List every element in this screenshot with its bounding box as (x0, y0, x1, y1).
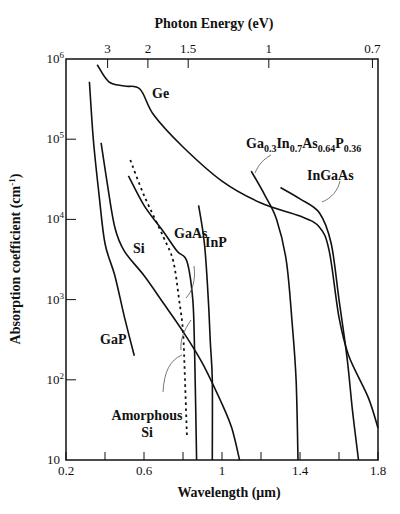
label-si: Si (133, 241, 145, 256)
label-amorphous-si: Si (141, 425, 153, 440)
label-gaas: GaAs (174, 226, 208, 241)
ingaas-leader (322, 181, 340, 202)
top-tick-label: 1.5 (180, 41, 196, 56)
curves (89, 65, 378, 460)
label-ingaas: InGaAs (307, 168, 354, 183)
top-tick-label: 3 (104, 41, 111, 56)
x-tick-label: 0.2 (58, 463, 74, 478)
x-axis-title: Wavelength (μm) (177, 485, 281, 501)
y-tick-label: 104 (47, 210, 65, 226)
label-amorphous: Amorphous (112, 408, 183, 423)
top-tick-label: 2 (145, 41, 152, 56)
absorption-chart: 0.20.611.41.810102103104105106321.510.7 … (0, 0, 400, 514)
label-gap: GaP (100, 332, 127, 347)
amorphous-leader (163, 355, 182, 392)
x-tick-label: 0.6 (136, 463, 153, 478)
y-tick-label: 102 (47, 371, 65, 387)
curve-amorphous-si (130, 160, 187, 436)
y-tick-label: 10 (47, 452, 60, 467)
x-tick-label: 1.8 (370, 463, 386, 478)
top-axis-title: Photon Energy (eV) (155, 16, 274, 32)
y-axis-title: Absorption coefficient (cm-1) (7, 173, 24, 344)
y-tick-label: 106 (47, 50, 65, 66)
top-tick-label: 0.7 (364, 41, 381, 56)
y-tick-label: 103 (47, 291, 65, 307)
x-tick-label: 1.4 (292, 463, 309, 478)
label-quaternary: Ga0.3In0.7As0.64P0.36 (246, 136, 361, 154)
axis-tick-labels: 0.20.611.41.810102103104105106321.510.7 (47, 41, 387, 478)
curve-gap (89, 82, 134, 356)
x-tick-label: 1 (219, 463, 226, 478)
quat-leader (255, 155, 271, 173)
top-tick-label: 1 (266, 41, 273, 56)
y-tick-label: 105 (47, 130, 65, 146)
curve-ga0-3in0-7as0-64p0-36 (251, 171, 298, 460)
label-inp: InP (205, 235, 227, 250)
label-ge: Ge (152, 86, 169, 101)
